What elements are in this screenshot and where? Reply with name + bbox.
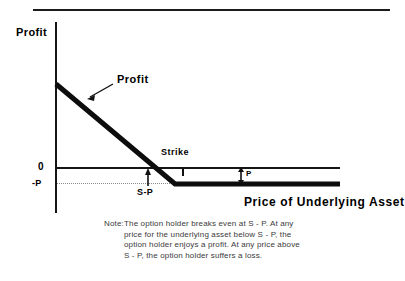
profit-callout-label: Profit [117, 74, 149, 85]
note-line-1: Note:The option holder breaks even at S … [104, 219, 354, 230]
breakeven-callout-label: S-P [137, 188, 153, 197]
payoff-polyline [56, 84, 340, 184]
y-axis-title: Profit [16, 27, 47, 38]
premium-callout-label: P [246, 170, 251, 178]
figure-note: Note:The option holder breaks even at S … [104, 219, 354, 261]
premium-arrowhead-down [238, 180, 244, 185]
zero-profit-line [55, 167, 340, 169]
x-axis-title: Price of Underlying Asset [244, 196, 405, 208]
note-line-2-text: price for the underlying asset below S -… [124, 230, 291, 239]
breakeven-arrowhead [145, 168, 151, 175]
note-line-1-text: The option holder breaks even at S - P. … [124, 219, 294, 228]
profit-callout-arrowhead [87, 95, 95, 101]
strike-tick-mark [182, 167, 184, 176]
note-line-4: S - P, the option holder suffers a loss. [104, 251, 354, 262]
strike-callout-label: Strike [161, 148, 189, 157]
note-line-4-text: S - P, the option holder suffers a loss. [124, 251, 262, 260]
negative-premium-guide-line [57, 183, 172, 184]
y-axis-line [55, 22, 57, 213]
y-tick-label-negative-premium: -P [32, 179, 41, 188]
note-line-2: price for the underlying asset below S -… [104, 230, 354, 241]
note-line-3-text: option holder enjoys a profit. At any pr… [124, 240, 300, 249]
profit-callout-leader [90, 84, 113, 97]
note-label: Note: [104, 219, 124, 230]
note-line-3: option holder enjoys a profit. At any pr… [104, 240, 354, 251]
y-tick-label-zero: 0 [38, 162, 44, 172]
top-divider-rule [33, 9, 390, 11]
